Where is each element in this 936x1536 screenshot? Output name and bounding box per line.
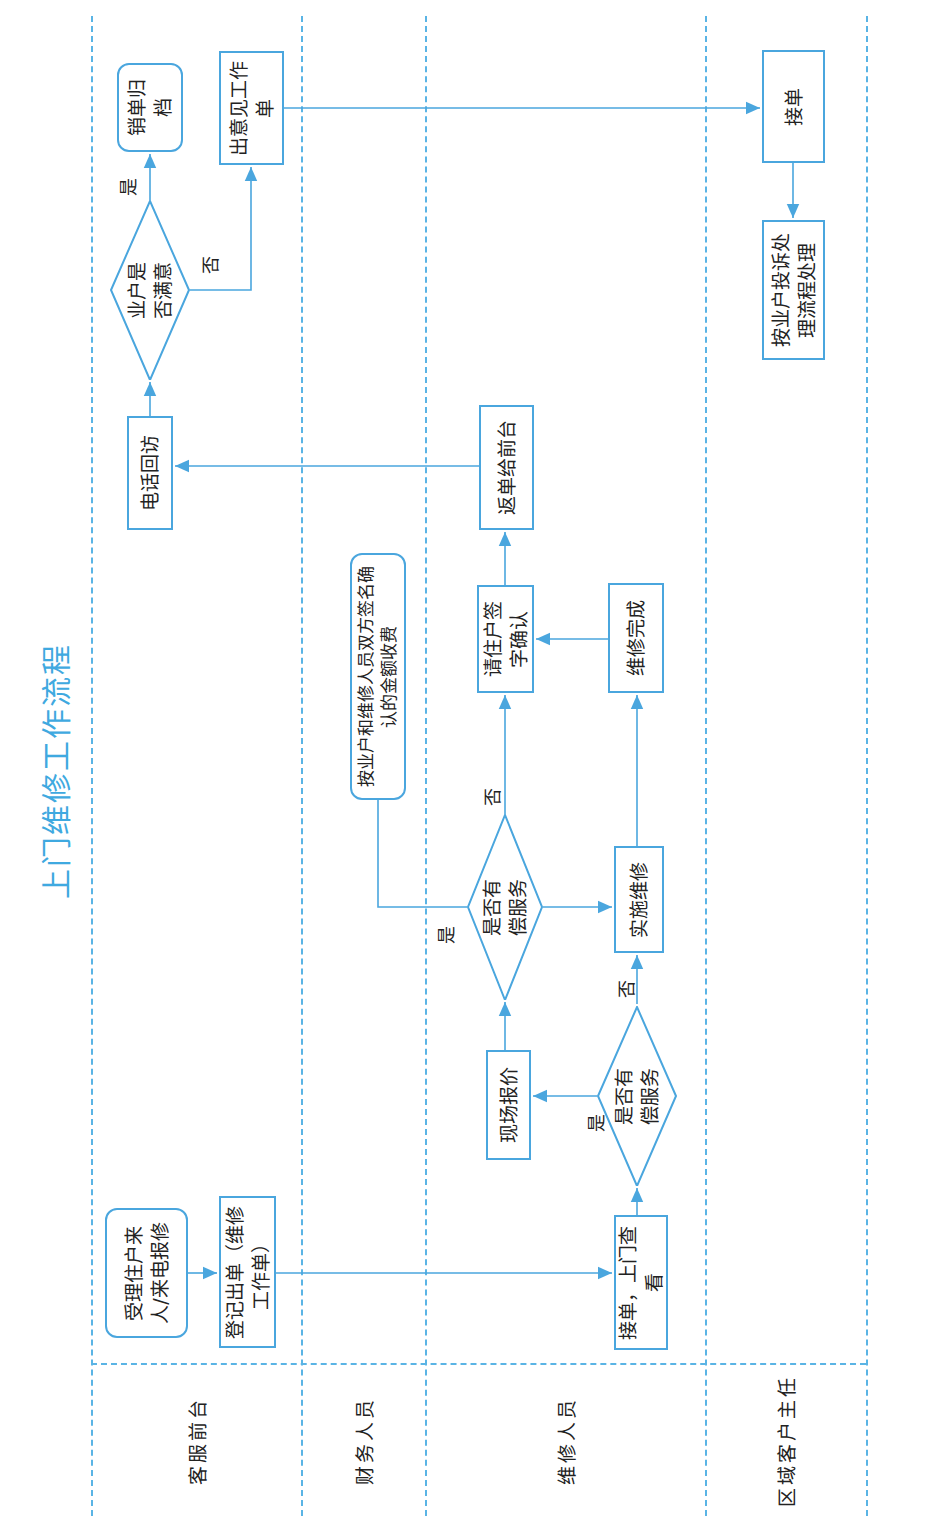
node-repair-done: 维修完成 (608, 583, 664, 693)
node-return-to-desk: 返单给前台 (479, 405, 534, 530)
node-receive-order: 接单 (762, 50, 825, 163)
node-phone-followup: 电话回访 (127, 416, 173, 530)
edge-label-lower-no: 否 (612, 980, 638, 998)
node-receive-inspect: 接单，上门查看 (614, 1215, 668, 1350)
decision-paid-service-upper-text: 是否有偿服务 (479, 871, 531, 943)
edge-label-upper-no: 否 (478, 788, 504, 806)
edge-label-lower-yes: 是 (582, 1114, 608, 1132)
node-close-archive: 销单归档 (117, 63, 183, 152)
flowchart-canvas: 上门维修工作流程 客服前台 财务人员 维修人员 区域客户主任 (0, 0, 936, 1536)
decision-satisfied: 业户是否满意 (110, 200, 190, 380)
node-charge-by-signed-amount: 按业户和维修人员双方签名确认的金额收费 (350, 553, 406, 800)
decision-paid-service-upper: 是否有偿服务 (467, 814, 543, 1000)
node-complaint-process: 按业户投诉处理流程处理 (762, 220, 825, 360)
decision-paid-service-lower: 是否有偿服务 (597, 1006, 677, 1186)
edge-label-satisfied-yes: 是 (114, 178, 140, 196)
node-onsite-quote: 现场报价 (486, 1050, 531, 1160)
edge-label-satisfied-no: 否 (196, 256, 222, 274)
node-register-order: 登记出单（维修工作单） (219, 1196, 276, 1348)
edge-label-upper-yes: 是 (432, 926, 458, 944)
decision-satisfied-text: 业户是否满意 (124, 254, 176, 326)
node-issue-feedback: 出意见工作单 (219, 51, 284, 165)
node-resident-sign: 请住户签字确认 (477, 585, 534, 693)
decision-paid-service-lower-text: 是否有偿服务 (611, 1060, 663, 1132)
node-accept-report: 受理住户来人/来电报修 (105, 1208, 188, 1338)
node-implement-repair: 实施维修 (614, 846, 664, 953)
